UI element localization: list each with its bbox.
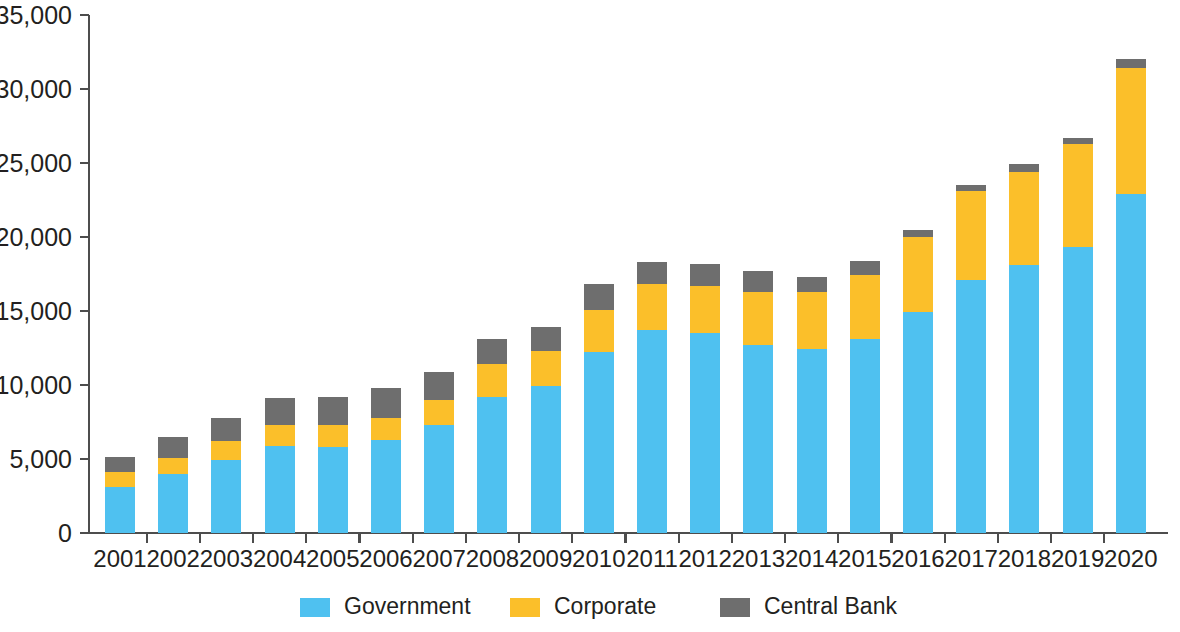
bar-group — [531, 327, 561, 533]
x-axis-tick-label: 2019 — [1051, 545, 1104, 572]
bar-group — [850, 261, 880, 533]
bar-segment-central-bank — [531, 327, 561, 351]
x-axis-tick-label: 2008 — [466, 545, 519, 572]
bar-group — [318, 397, 348, 533]
bar-segment-corporate — [903, 237, 933, 312]
bar-segment-corporate — [477, 364, 507, 397]
bar-group — [105, 457, 135, 533]
bar-group — [956, 185, 986, 533]
bar-segment-corporate — [424, 400, 454, 425]
bar-segment-government — [318, 447, 348, 533]
bar-segment-corporate — [265, 425, 295, 446]
x-axis-tick-label: 2007 — [413, 545, 466, 572]
bar-group — [1116, 59, 1146, 533]
bar-group — [265, 398, 295, 533]
y-axis-tick-label: 0 — [58, 519, 72, 547]
y-axis-tick-label: 10,000 — [0, 371, 72, 399]
bar-group — [477, 339, 507, 533]
x-axis-tick-label: 2015 — [838, 545, 891, 572]
bar-group — [637, 262, 667, 533]
bar-segment-government — [371, 440, 401, 533]
bar-group — [690, 264, 720, 533]
bar-segment-corporate — [690, 286, 720, 333]
bar-group — [584, 284, 614, 533]
legend-label: Corporate — [554, 593, 656, 619]
bar-group — [797, 277, 827, 533]
bar-group — [424, 372, 454, 533]
bar-segment-corporate — [850, 275, 880, 339]
x-axis-tick-label: 2014 — [785, 545, 838, 572]
bar-segment-central-bank — [424, 372, 454, 400]
bar-segment-central-bank — [797, 277, 827, 292]
bar-segment-government — [1116, 194, 1146, 533]
x-axis-tick-label: 2006 — [359, 545, 412, 572]
bar-segment-central-bank — [158, 437, 188, 458]
bar-segment-central-bank — [956, 185, 986, 191]
bar-segment-central-bank — [850, 261, 880, 276]
x-axis-tick-label: 2009 — [519, 545, 572, 572]
bar-segment-corporate — [371, 418, 401, 440]
legend-swatch — [720, 598, 750, 617]
y-axis-tick-label: 25,000 — [0, 149, 72, 177]
x-axis-tick-label: 2011 — [626, 545, 678, 572]
x-axis-tick-label: 2003 — [200, 545, 253, 572]
bar-segment-government — [637, 330, 667, 533]
bar-segment-central-bank — [637, 262, 667, 284]
bar-group — [1009, 164, 1039, 533]
bar-segment-government — [1009, 265, 1039, 533]
bar-segment-government — [105, 487, 135, 533]
bar-segment-central-bank — [1063, 138, 1093, 144]
bar-segment-central-bank — [477, 339, 507, 364]
bar-segment-central-bank — [903, 230, 933, 237]
bar-segment-corporate — [1116, 68, 1146, 194]
x-axis-tick-label: 2002 — [147, 545, 200, 572]
bar-segment-government — [584, 352, 614, 533]
bar-segment-corporate — [105, 472, 135, 487]
bar-segment-central-bank — [265, 398, 295, 425]
chart-canvas: 05,00010,00015,00020,00025,00030,00035,0… — [0, 0, 1180, 632]
bar-segment-government — [211, 460, 241, 533]
bar-segment-central-bank — [690, 264, 720, 286]
bar-segment-government — [797, 349, 827, 533]
bar-segment-corporate — [211, 441, 241, 460]
bar-segment-central-bank — [743, 271, 773, 292]
bar-segment-government — [690, 333, 720, 533]
x-axis-tick-label: 2018 — [998, 545, 1051, 572]
bar-group — [743, 271, 773, 533]
bar-segment-corporate — [1009, 172, 1039, 265]
bar-segment-government — [424, 425, 454, 533]
bar-segment-government — [956, 280, 986, 533]
stacked-bar-chart: 05,00010,00015,00020,00025,00030,00035,0… — [0, 0, 1180, 632]
x-axis-tick-label: 2004 — [253, 545, 306, 572]
bar-segment-government — [477, 397, 507, 533]
y-axis-tick-label: 5,000 — [9, 445, 72, 473]
bar-group — [903, 230, 933, 533]
bar-segment-central-bank — [371, 388, 401, 418]
legend-swatch — [510, 598, 540, 617]
y-axis-tick-label: 20,000 — [0, 223, 72, 251]
bar-segment-corporate — [956, 191, 986, 280]
bar-segment-government — [265, 446, 295, 533]
x-axis-tick-label: 2010 — [572, 545, 625, 572]
x-axis-tick-label: 2016 — [891, 545, 944, 572]
bar-group — [158, 437, 188, 533]
bar-segment-government — [903, 312, 933, 533]
x-axis-tick-label: 2012 — [679, 545, 732, 572]
bar-segment-central-bank — [1009, 164, 1039, 171]
bar-segment-central-bank — [318, 397, 348, 425]
legend-swatch — [300, 598, 330, 617]
bar-segment-corporate — [743, 292, 773, 345]
bar-segment-government — [850, 339, 880, 533]
y-axis-tick-label: 30,000 — [0, 75, 72, 103]
bar-segment-corporate — [158, 458, 188, 474]
y-axis-tick-label: 15,000 — [0, 297, 72, 325]
bar-segment-corporate — [584, 310, 614, 353]
x-axis-tick-label: 2020 — [1104, 545, 1157, 572]
bar-segment-corporate — [797, 292, 827, 350]
bar-segment-government — [531, 386, 561, 533]
bar-segment-corporate — [531, 351, 561, 387]
bar-segment-central-bank — [584, 284, 614, 309]
bar-segment-government — [1063, 247, 1093, 533]
bar-segment-government — [743, 345, 773, 533]
bar-segment-central-bank — [1116, 59, 1146, 68]
